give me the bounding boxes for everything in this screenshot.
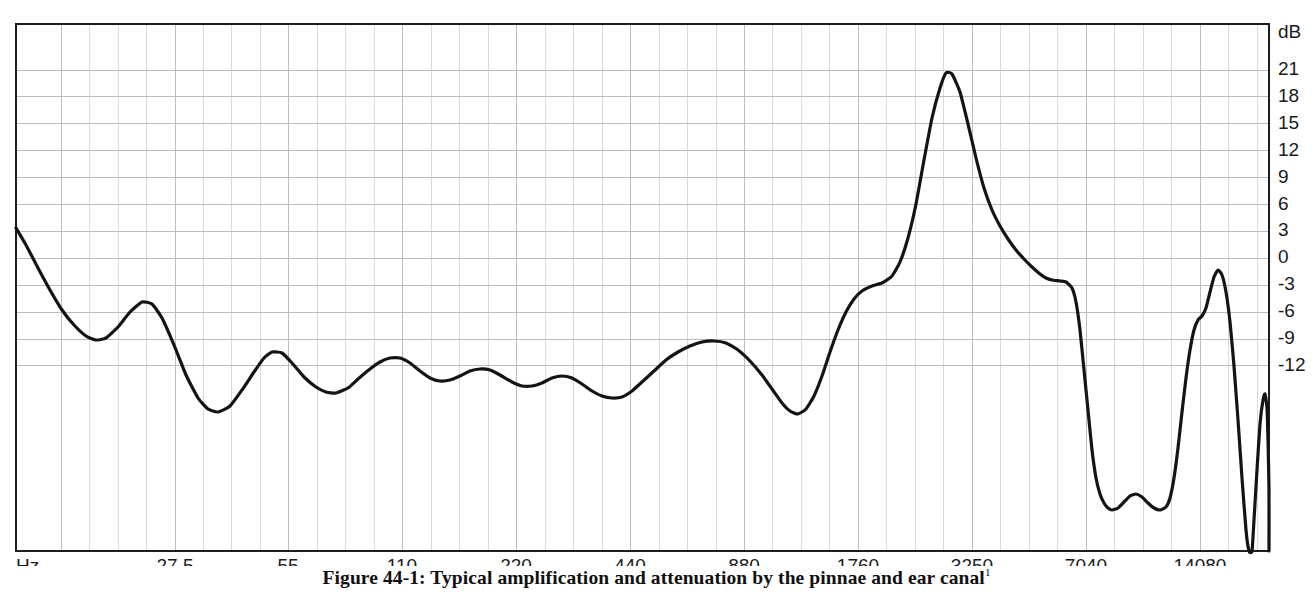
x-axis-tick-label: 1760	[837, 555, 879, 566]
y-axis-unit-label: dB	[1278, 21, 1301, 42]
x-axis-tick-label: 110	[387, 555, 417, 566]
y-axis-tick-label: 6	[1278, 193, 1289, 214]
x-axis-tick-label: 3250	[951, 555, 993, 566]
x-axis-tick-label: 27.5	[157, 555, 194, 566]
y-axis-tick-label: -6	[1278, 300, 1295, 321]
y-axis-tick-label: 9	[1278, 166, 1289, 187]
y-axis-tick-label: -3	[1278, 273, 1295, 294]
x-axis-unit-label: Hz	[16, 555, 39, 566]
y-axis-tick-label: 12	[1278, 139, 1299, 160]
y-axis-tick-label: 18	[1278, 85, 1299, 106]
x-axis-tick-label: 7040	[1065, 555, 1107, 566]
frequency-response-chart: 211815129630-3-6-9-12 27.555110220440880…	[0, 0, 1313, 566]
y-axis-tick-label: 3	[1278, 219, 1289, 240]
x-axis-tick-label: 880	[728, 555, 760, 566]
x-axis-tick-label: 220	[500, 555, 532, 566]
x-axis-tick-label: 440	[614, 555, 646, 566]
figure-caption: Figure 44-1: Typical amplification and a…	[0, 566, 1313, 589]
y-axis-tick-label: 0	[1278, 246, 1289, 267]
y-axis-tick-label: 21	[1278, 58, 1299, 79]
figure-caption-footnote: 1	[985, 566, 991, 578]
y-axis-tick-label: 15	[1278, 112, 1299, 133]
x-axis-tick-label: 14080	[1174, 555, 1227, 566]
x-axis-tick-label: 55	[277, 555, 298, 566]
figure-caption-text: Figure 44-1: Typical amplification and a…	[323, 567, 985, 588]
y-axis-tick-label: -12	[1278, 354, 1305, 375]
chart-background	[0, 0, 1313, 566]
y-axis-tick-label: -9	[1278, 327, 1295, 348]
figure-container: 211815129630-3-6-9-12 27.555110220440880…	[0, 0, 1313, 604]
